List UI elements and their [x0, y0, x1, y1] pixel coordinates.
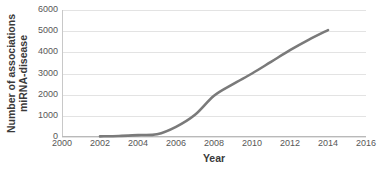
- plot-area: [62, 10, 366, 137]
- series-line-group: [62, 10, 366, 137]
- x-axis-tick-label: 2012: [270, 139, 310, 148]
- y-axis-title: Number of associations miRNA-disease: [0, 0, 34, 148]
- x-axis-tick-label: 2008: [194, 139, 234, 148]
- y-axis-tick-label: 1000: [32, 111, 58, 120]
- x-axis-tick-label: 2006: [156, 139, 196, 148]
- x-axis-title: Year: [62, 153, 366, 164]
- y-axis-title-line-2: miRNA-disease: [18, 35, 29, 112]
- y-axis-tick-label: 2000: [32, 90, 58, 99]
- x-axis-tick-label: 2016: [346, 139, 378, 148]
- y-axis-tick-label: 4000: [32, 47, 58, 56]
- x-axis-tick-label: 2000: [42, 139, 82, 148]
- x-axis-tick-labels: 200020022004200620082010201220142016: [0, 139, 378, 153]
- y-axis-tick-label: 3000: [32, 69, 58, 78]
- x-axis-tick-label: 2004: [118, 139, 158, 148]
- y-axis-title-line-1: Number of associations: [6, 14, 17, 133]
- series-line-miRNA-disease: [100, 30, 328, 136]
- x-axis-tick-label: 2002: [80, 139, 120, 148]
- x-axis-tick-label: 2014: [308, 139, 348, 148]
- y-axis-tick-label: 5000: [32, 26, 58, 35]
- x-axis-tick-label: 2010: [232, 139, 272, 148]
- chart-figure: Number of associations miRNA-disease 010…: [0, 0, 378, 174]
- y-axis-tick-label: 6000: [32, 5, 58, 14]
